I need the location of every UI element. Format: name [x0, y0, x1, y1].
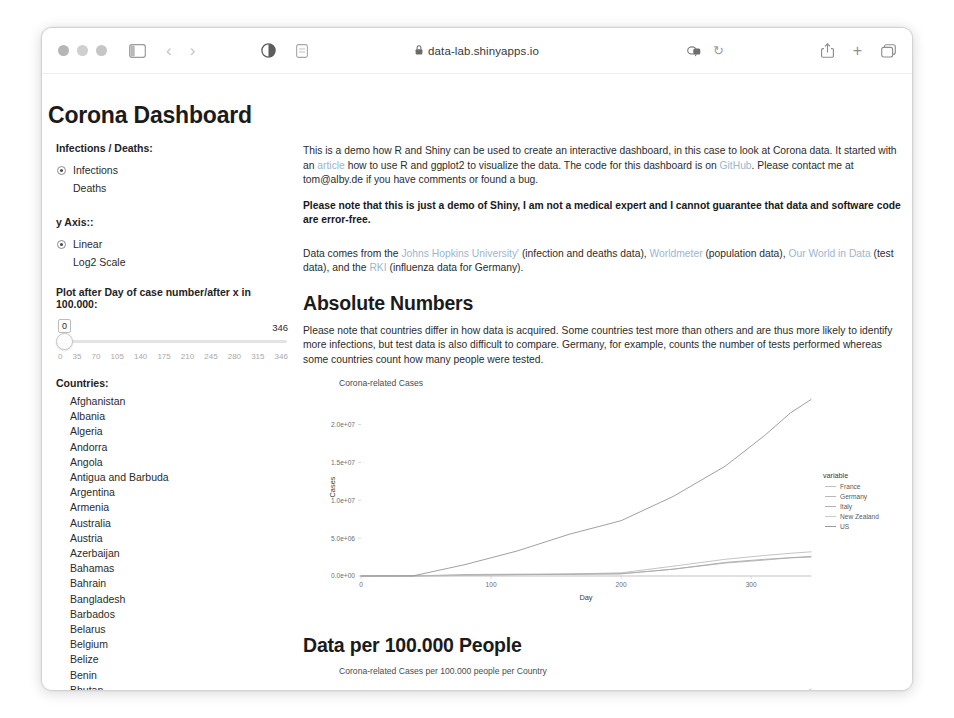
- radio-option-log2[interactable]: Log2 Scale: [56, 256, 288, 268]
- article-link[interactable]: article: [317, 160, 344, 171]
- github-link[interactable]: GitHub: [720, 160, 752, 171]
- country-checkbox-item[interactable]: Belarus: [70, 622, 288, 637]
- minimize-button[interactable]: [77, 45, 88, 56]
- sidebar-toggle-icon[interactable]: [129, 44, 146, 58]
- per-100000-heading: Data per 100.000 People: [303, 634, 903, 657]
- svg-text:200: 200: [616, 581, 627, 588]
- slider-tick: 346: [275, 352, 288, 361]
- country-checkbox-item[interactable]: Bahrain: [70, 576, 288, 591]
- browser-window: ‹ ›: [41, 27, 913, 691]
- back-button[interactable]: ‹: [166, 42, 172, 59]
- main-column: This is a demo how R and Shiny can be us…: [303, 144, 903, 691]
- maximize-button[interactable]: [96, 45, 107, 56]
- country-checkbox-item[interactable]: Algeria: [70, 424, 288, 439]
- country-checkbox-item[interactable]: Argentina: [70, 485, 288, 500]
- controls-sidebar: Infections / Deaths: Infections Deaths y…: [56, 142, 288, 691]
- slider-tick: 105: [111, 352, 124, 361]
- radio-infections-label: Infections: [73, 164, 118, 176]
- radio-option-deaths[interactable]: Deaths: [56, 182, 288, 194]
- reload-button[interactable]: ↻: [713, 44, 724, 57]
- rki-link[interactable]: RKI: [369, 262, 386, 273]
- toolbar-extras: [261, 43, 308, 58]
- svg-text:5.0e+06: 5.0e+06: [331, 535, 355, 542]
- close-button[interactable]: [58, 45, 69, 56]
- forward-button[interactable]: ›: [190, 42, 196, 59]
- slider-tick: 315: [251, 352, 264, 361]
- country-checkbox-item[interactable]: Benin: [70, 668, 288, 683]
- window-controls: [58, 45, 107, 56]
- chart1-plot: 0.0e+005.0e+061.0e+071.5e+072.0e+0701002…: [303, 390, 903, 612]
- country-checkbox-item[interactable]: Andorra: [70, 440, 288, 455]
- chart1-title: Corona-related Cases: [339, 378, 903, 388]
- country-checkbox-item[interactable]: Armenia: [70, 500, 288, 515]
- absolute-numbers-heading: Absolute Numbers: [303, 292, 903, 315]
- svg-text:1.5e+07: 1.5e+07: [331, 459, 355, 466]
- radio-infections-icon[interactable]: [57, 166, 66, 175]
- page-actions: ↻: [687, 44, 724, 57]
- url-text: data-lab.shinyapps.io: [428, 45, 539, 57]
- country-checkbox-item[interactable]: Belgium: [70, 637, 288, 652]
- new-tab-button[interactable]: +: [853, 43, 862, 59]
- svg-text:0: 0: [359, 581, 363, 588]
- country-checkbox-item[interactable]: Antigua and Barbuda: [70, 470, 288, 485]
- radio-deaths-icon[interactable]: [57, 184, 66, 193]
- reader-view-icon[interactable]: [296, 44, 308, 58]
- country-checkbox-list[interactable]: AfghanistanAlbaniaAlgeriaAndorraAngolaAn…: [56, 394, 288, 691]
- svg-text:US: US: [840, 523, 850, 530]
- disclaimer-paragraph: Please note that this is just a demo of …: [303, 199, 903, 228]
- country-checkbox-item[interactable]: Albania: [70, 409, 288, 424]
- day-slider[interactable]: 0 346 0 35 70 105 140 175 210 245 280 31…: [56, 319, 288, 363]
- slider-tick-labels: 0 35 70 105 140 175 210 245 280 315 346: [58, 352, 288, 361]
- radio-linear-label: Linear: [73, 238, 102, 250]
- country-checkbox-item[interactable]: Bangladesh: [70, 592, 288, 607]
- sources-text-3: (population data),: [703, 248, 789, 259]
- slider-tick: 140: [134, 352, 147, 361]
- lock-icon: [415, 45, 423, 57]
- country-checkbox-item[interactable]: Austria: [70, 531, 288, 546]
- navigation-arrows: ‹ ›: [166, 42, 195, 59]
- country-checkbox-item[interactable]: Bahamas: [70, 561, 288, 576]
- sources-text-5: (influenza data for Germany).: [387, 262, 524, 273]
- sources-paragraph: Data comes from the Johns Hopkins Univer…: [303, 247, 903, 276]
- svg-text:Day: Day: [579, 593, 592, 602]
- svg-text:0.0e+00: 0.0e+00: [331, 572, 355, 579]
- slider-tick: 0: [58, 352, 62, 361]
- svg-text:New Zealand: New Zealand: [840, 513, 879, 520]
- slider-tick: 210: [181, 352, 194, 361]
- slider-value-bubble: 0: [58, 319, 71, 333]
- svg-text:300: 300: [746, 581, 757, 588]
- absolute-cases-chart: Corona-related Cases 0.0e+005.0e+061.0e+…: [303, 378, 903, 616]
- contrast-icon[interactable]: [261, 43, 276, 58]
- slider-label: Plot after Day of case number/after x in…: [56, 286, 288, 310]
- slider-track[interactable]: [59, 340, 287, 343]
- per-100000-chart: Corona-related Cases per 100.000 people …: [303, 666, 903, 691]
- absolute-numbers-note: Please note that countries differ in how…: [303, 324, 903, 368]
- privacy-report-icon[interactable]: [687, 45, 702, 57]
- worldometer-link[interactable]: Worldmeter: [650, 248, 703, 259]
- owid-link[interactable]: Our World in Data: [788, 248, 870, 259]
- slider-max-label: 346: [272, 322, 288, 333]
- jhu-link[interactable]: Johns Hopkins University': [401, 248, 519, 259]
- intro-paragraph: This is a demo how R and Shiny can be us…: [303, 144, 903, 188]
- radio-option-infections[interactable]: Infections: [56, 164, 288, 176]
- show-tabs-icon[interactable]: [881, 44, 896, 58]
- browser-toolbar: ‹ ›: [42, 28, 912, 74]
- radio-log2-icon[interactable]: [57, 258, 66, 267]
- toolbar-right-actions: +: [821, 43, 896, 59]
- sources-text-1: Data comes from the: [303, 248, 401, 259]
- country-checkbox-item[interactable]: Azerbaijan: [70, 546, 288, 561]
- chart2-title: Corona-related Cases per 100.000 people …: [339, 666, 903, 676]
- radio-option-linear[interactable]: Linear: [56, 238, 288, 250]
- radio-linear-icon[interactable]: [57, 240, 66, 249]
- page-content: Corona Dashboard Infections / Deaths: In…: [42, 74, 912, 691]
- country-checkbox-item[interactable]: Bhutan: [70, 683, 288, 691]
- country-checkbox-item[interactable]: Afghanistan: [70, 394, 288, 409]
- country-checkbox-item[interactable]: Barbados: [70, 607, 288, 622]
- y-axis-label: y Axis::: [56, 216, 288, 228]
- slider-handle[interactable]: [56, 333, 73, 350]
- country-checkbox-item[interactable]: Angola: [70, 455, 288, 470]
- country-checkbox-item[interactable]: Australia: [70, 516, 288, 531]
- share-icon[interactable]: [821, 43, 834, 58]
- country-checkbox-item[interactable]: Belize: [70, 652, 288, 667]
- slider-tick: 70: [92, 352, 101, 361]
